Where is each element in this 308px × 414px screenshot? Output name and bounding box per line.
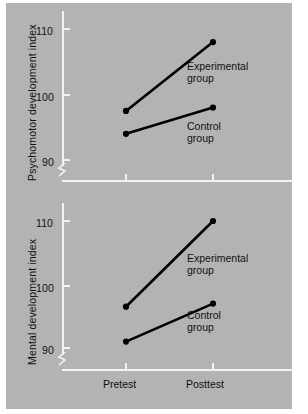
- annotation-control-line1-bottom: Control: [187, 310, 221, 322]
- x-tick-label-pretest: Pretest: [103, 378, 136, 390]
- annotation-experimental-line1-bottom: Experimental: [187, 253, 248, 265]
- annotation-experimental-bottom: Experimental group: [187, 253, 248, 276]
- data-point: [210, 301, 216, 307]
- figure-canvas: Psychomotor development index 110 100 90: [6, 3, 292, 409]
- annotation-control-bottom: Control group: [187, 310, 221, 333]
- annotation-control-line2-bottom: group: [187, 322, 221, 334]
- data-point: [123, 339, 129, 345]
- x-tick-label-posttest: Posttest: [186, 378, 224, 390]
- data-point: [210, 218, 216, 224]
- series-layer-bottom: [6, 3, 292, 409]
- data-point: [123, 304, 129, 310]
- annotation-experimental-line2-bottom: group: [187, 265, 248, 277]
